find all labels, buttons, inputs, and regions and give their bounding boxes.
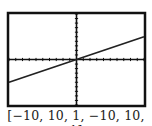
window-settings-caption: [−10, 10, 1, −10, 10, 1] (0, 108, 152, 126)
graph-window (0, 0, 152, 108)
